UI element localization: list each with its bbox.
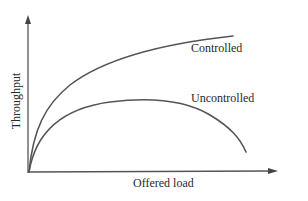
throughput-chart: Controlled Uncontrolled Offered load Thr… — [0, 0, 308, 201]
controlled-label: Controlled — [191, 41, 242, 55]
x-axis — [28, 171, 270, 172]
y-axis-label: Throughput — [9, 72, 23, 129]
uncontrolled-curve — [29, 100, 246, 172]
x-axis-arrow-icon — [268, 168, 278, 174]
uncontrolled-label: Uncontrolled — [191, 91, 254, 105]
x-axis-label: Offered load — [133, 176, 194, 190]
y-axis-arrow-icon — [25, 15, 31, 24]
